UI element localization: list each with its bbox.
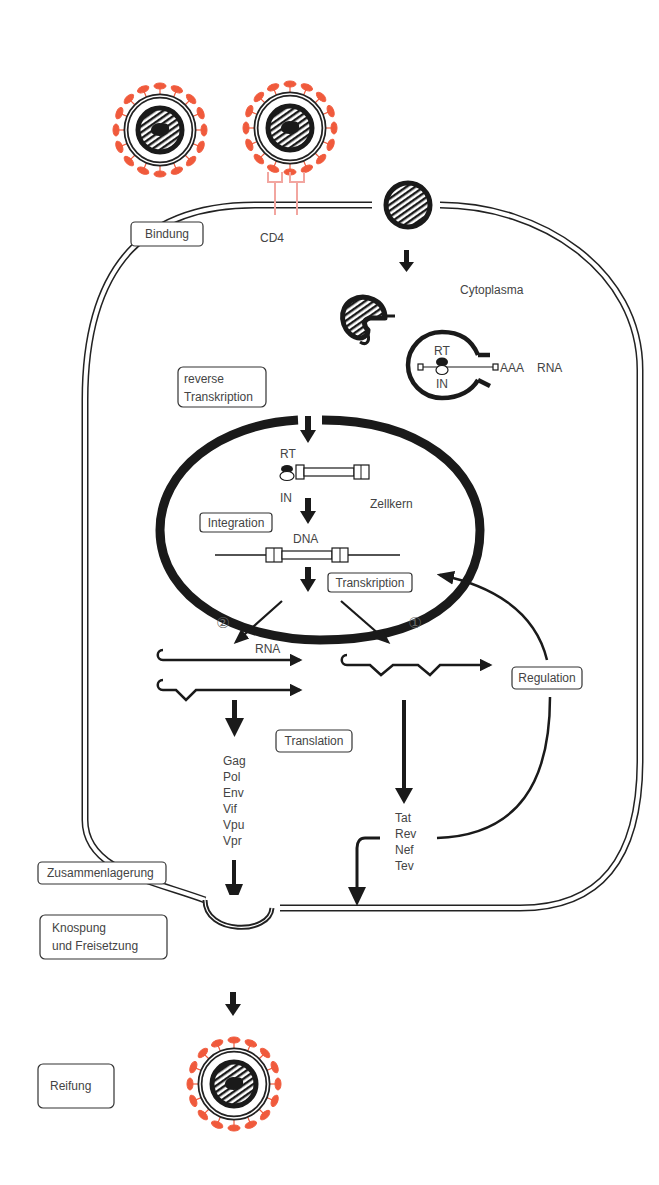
rna-complex: RT IN AAA RNA	[408, 332, 562, 398]
svg-text:Gag: Gag	[223, 754, 246, 768]
svg-text:reverse: reverse	[184, 372, 224, 386]
svg-text:Bindung: Bindung	[145, 227, 189, 241]
regulatory-translation-arrow	[395, 700, 413, 804]
svg-text:Tev: Tev	[395, 859, 414, 873]
svg-text:Transkription: Transkription	[336, 576, 405, 590]
svg-text:RNA: RNA	[537, 361, 562, 375]
mature-virion	[187, 1037, 281, 1131]
dna-label: DNA	[293, 532, 318, 546]
single-spliced-rna	[158, 680, 300, 700]
regulatory-arrowhead	[348, 887, 366, 906]
pathway-2-marker: ②	[216, 614, 229, 632]
svg-text:Nef: Nef	[395, 843, 414, 857]
svg-text:Transkription: Transkription	[184, 390, 253, 404]
cd4-receptor	[268, 172, 304, 215]
pre-integration-complex: RT IN	[280, 447, 369, 505]
svg-text:Vif: Vif	[223, 802, 237, 816]
cd4-label: CD4	[260, 231, 284, 245]
svg-text:Knospung: Knospung	[52, 921, 106, 935]
release-arrow	[225, 992, 241, 1016]
free-virion-1	[113, 83, 207, 177]
regulatory-to-membrane-line	[357, 838, 380, 888]
zellkern-label: Zellkern	[370, 497, 413, 511]
stage-zusammenlagerung: Zusammenlagerung	[38, 862, 166, 884]
fusing-virion	[361, 153, 455, 247]
stage-translation: Translation	[276, 730, 352, 752]
svg-text:AAA: AAA	[500, 361, 524, 375]
svg-text:RT: RT	[434, 344, 450, 358]
nuclear-import-arrow	[300, 416, 316, 443]
binding-virion	[243, 81, 337, 215]
integration-arrow	[300, 498, 316, 524]
stage-reifung: Reifung	[38, 1064, 114, 1108]
structural-proteins-list: Gag Pol Env Vif Vpu Vpr	[223, 754, 246, 848]
svg-text:Rev: Rev	[395, 827, 416, 841]
uncoating-capsid	[343, 297, 395, 343]
svg-text:Env: Env	[223, 786, 244, 800]
svg-text:Tat: Tat	[395, 811, 412, 825]
stage-knospung: Knospung und Freisetzung	[40, 915, 167, 959]
entry-arrow	[399, 250, 414, 272]
stage-regulation: Regulation	[512, 667, 582, 689]
rna-transcripts-label: RNA	[255, 642, 280, 656]
transcription-arrow	[300, 567, 316, 592]
svg-text:Translation: Translation	[285, 734, 344, 748]
structural-translation-arrow	[225, 700, 244, 737]
svg-text:Vpu: Vpu	[223, 818, 244, 832]
svg-text:Pol: Pol	[223, 770, 240, 784]
svg-text:Zusammenlagerung: Zusammenlagerung	[47, 866, 154, 880]
svg-text:Regulation: Regulation	[518, 671, 575, 685]
svg-text:Reifung: Reifung	[50, 1079, 91, 1093]
svg-text:Vpr: Vpr	[223, 834, 242, 848]
svg-text:IN: IN	[280, 491, 292, 505]
stage-reverse-transkription: reverse Transkription	[178, 367, 266, 407]
hiv-lifecycle-diagram: Bindung CD4 Cytoplasma RT IN AAA RNA rev…	[0, 0, 659, 1185]
regulation-feedback-arrow	[440, 575, 547, 660]
regulatory-proteins-line	[437, 697, 550, 838]
stage-bindung: Bindung	[131, 222, 203, 246]
multiply-spliced-rna	[342, 655, 490, 675]
svg-text:Integration: Integration	[208, 516, 265, 530]
integrated-dna	[215, 548, 400, 562]
stage-transkription: Transkription	[328, 573, 412, 592]
stage-integration: Integration	[200, 513, 272, 532]
svg-text:und Freisetzung: und Freisetzung	[52, 939, 138, 953]
cytoplasma-label: Cytoplasma	[460, 283, 524, 297]
regulatory-proteins-list: Tat Rev Nef Tev	[395, 811, 416, 873]
pathway-1-marker: ①	[408, 614, 421, 632]
svg-text:RT: RT	[280, 447, 296, 461]
svg-text:IN: IN	[436, 377, 448, 391]
